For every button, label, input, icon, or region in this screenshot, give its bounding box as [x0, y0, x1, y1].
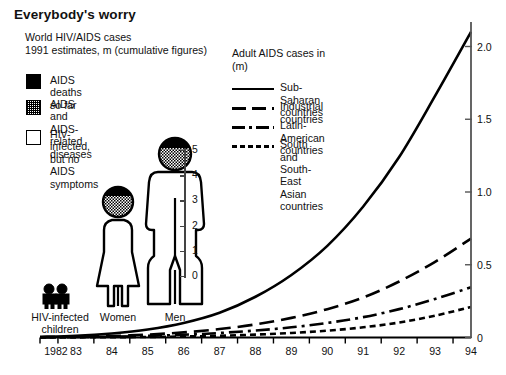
swatch-stipple-icon — [26, 100, 41, 115]
x-axis-label: 88 — [238, 346, 274, 356]
x-axis-label: 94 — [453, 346, 489, 356]
y-axis-label: 0.5 — [477, 260, 492, 270]
pictogram-children — [38, 283, 80, 309]
pictogram-scale-label: 5 — [192, 145, 198, 155]
y-axis-label: 2.0 — [477, 42, 492, 52]
page-title: Everybody's worry — [14, 7, 136, 22]
x-axis-label: 89 — [273, 346, 309, 356]
pictogram-men-caption: Men — [146, 311, 204, 323]
x-axis-label: 83 — [58, 346, 94, 356]
pictogram-scale-label: 1 — [192, 246, 198, 256]
pictogram-scale-tick — [180, 200, 186, 201]
swatch-white-icon — [26, 130, 41, 145]
pictogram-scale-tick — [180, 251, 186, 252]
series-legend-title: Adult AIDS cases in (m) — [232, 47, 325, 72]
chart-page: Everybody's worry World HIV/AIDS cases 1… — [0, 0, 506, 375]
x-axis-label: 92 — [381, 346, 417, 356]
x-axis-label: 84 — [94, 346, 130, 356]
legend-label: South and South-East Asian countries — [280, 138, 325, 212]
pictogram-scale-label: 2 — [192, 221, 198, 231]
legend-item-industrial: Industrial countries — [232, 100, 325, 119]
legend-item-asian: South and South-East Asian countries — [232, 138, 325, 157]
x-axis-label: 93 — [417, 346, 453, 356]
pictogram-scale-label: 4 — [192, 170, 198, 180]
pictogram-scale-label: 3 — [192, 195, 198, 205]
swatch-black-icon — [26, 74, 41, 89]
chart-subtitle: World HIV/AIDS cases 1991 estimates, m (… — [25, 31, 207, 56]
pictogram-women-caption: Women — [86, 311, 150, 323]
legend-item-sub-saharan: Sub-Saharan countries — [232, 81, 325, 100]
pictogram-women — [84, 182, 152, 310]
legend-item-latin-american: Latin-American countries — [232, 119, 325, 138]
pictogram-scale-label: 0 — [192, 271, 198, 281]
y-axis-label: 1.0 — [477, 187, 492, 197]
series-legend: Adult AIDS cases in (m) Sub-Saharan coun… — [232, 47, 325, 157]
pictogram-scale-tick — [180, 175, 186, 176]
x-axis-label: 87 — [202, 346, 238, 356]
pictogram-scale-tick — [180, 150, 186, 151]
pictogram-scale-spine — [184, 148, 186, 278]
legend-label: HIV-infected, but no AIDS symptoms — [50, 128, 98, 190]
pictogram-scale-axis: 012345 — [184, 148, 212, 282]
x-axis-label: 85 — [130, 346, 166, 356]
y-axis-label: 0 — [477, 333, 483, 343]
x-axis-label: 90 — [309, 346, 345, 356]
x-axis-label: 91 — [345, 346, 381, 356]
y-axis-label: 1.5 — [477, 114, 492, 124]
pictogram-scale-tick — [180, 276, 186, 277]
x-axis-label: 86 — [166, 346, 202, 356]
pictogram-scale-tick — [180, 226, 186, 227]
